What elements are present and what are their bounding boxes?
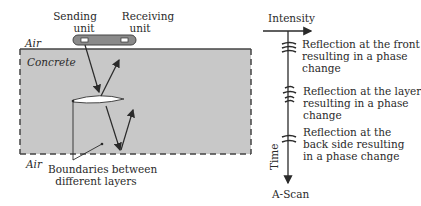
echo-front bbox=[282, 43, 296, 53]
time-label: Time bbox=[268, 143, 280, 170]
air-top-label: Air bbox=[25, 37, 41, 49]
reflection-layer: Reflection at the layerresulting in a ph… bbox=[303, 85, 421, 121]
sending-unit-label: Sendingunit bbox=[50, 10, 100, 34]
intensity-label: Intensity bbox=[268, 12, 315, 24]
air-bottom-label: Air bbox=[26, 158, 42, 170]
echo-back bbox=[282, 136, 296, 143]
reflection-back: Reflection at theback side resultingin a… bbox=[303, 126, 404, 162]
echo-layer bbox=[283, 87, 296, 103]
boundaries-label: Boundaries betweendifferent layers bbox=[48, 163, 144, 187]
reflection-front: Reflection at the frontresulting in a ph… bbox=[302, 38, 420, 74]
a-scan-label: A-Scan bbox=[272, 188, 309, 200]
receiving-unit-label: Receivingunit bbox=[118, 10, 178, 34]
concrete-label: Concrete bbox=[27, 56, 76, 68]
